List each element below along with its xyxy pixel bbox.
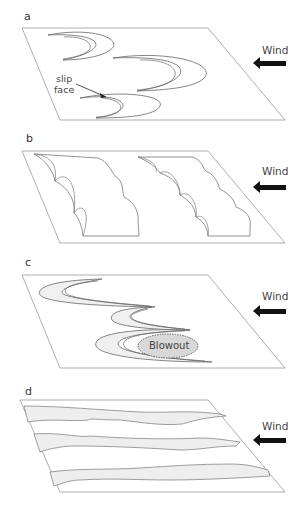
wind-label: Wind <box>262 420 288 432</box>
parabolic-diagram <box>0 250 302 380</box>
panel-c: c Wind Blowout <box>0 250 302 380</box>
wind-arrow-icon <box>253 305 286 317</box>
wind-arrow-icon <box>253 181 286 193</box>
wind-label: Wind <box>262 290 288 302</box>
blowout-label: Blowout <box>149 340 189 351</box>
wind-label: Wind <box>262 44 288 56</box>
wind-label: Wind <box>262 165 288 177</box>
panel-a: a Wind slip face <box>0 0 302 125</box>
longitudinal-diagram <box>0 380 302 509</box>
slip-label-line1: slip <box>54 73 74 84</box>
panel-d: d Wind <box>0 380 302 509</box>
wind-arrow-icon <box>253 57 286 69</box>
wind-arrow-icon <box>253 434 286 446</box>
panel-b: b Wind <box>0 125 302 250</box>
barchan-diagram <box>0 0 302 125</box>
slip-label-line2: face <box>54 84 74 95</box>
transverse-diagram <box>0 125 302 250</box>
slip-face-label: slip face <box>54 73 74 95</box>
